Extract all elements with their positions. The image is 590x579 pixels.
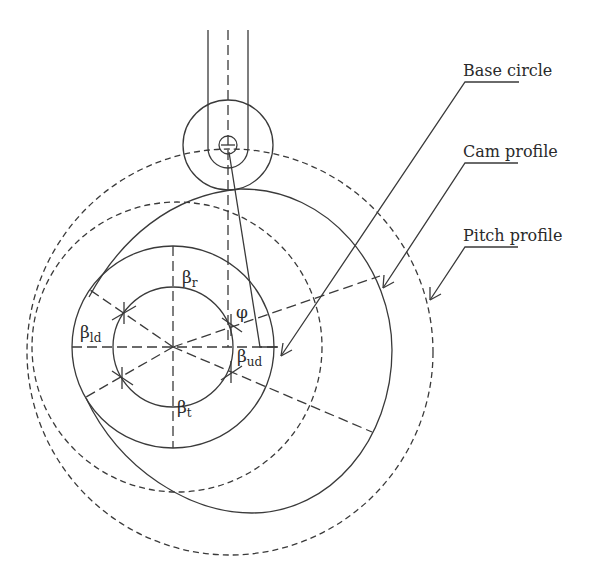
label-beta-t: βt — [177, 397, 192, 420]
ray-upper-left — [90, 290, 173, 347]
leader-pitch-profile — [430, 247, 518, 300]
cam-diagram: Base circle Cam profile Pitch profile βr… — [0, 0, 590, 579]
pitch-profile — [27, 149, 433, 555]
label-beta-ud: βud — [237, 346, 263, 369]
leader-base-circle — [281, 82, 519, 356]
label-pitch-profile: Pitch profile — [463, 226, 562, 245]
ray-lower-left — [86, 347, 173, 397]
label-phi: φ — [236, 302, 248, 322]
ray-upper-right — [173, 276, 380, 347]
label-beta-r: βr — [182, 267, 198, 290]
label-beta-ld: βld — [80, 322, 102, 345]
label-base-circle: Base circle — [463, 61, 552, 80]
follower — [183, 30, 273, 347]
ray-lower-right — [173, 347, 372, 432]
label-cam-profile: Cam profile — [463, 142, 558, 161]
